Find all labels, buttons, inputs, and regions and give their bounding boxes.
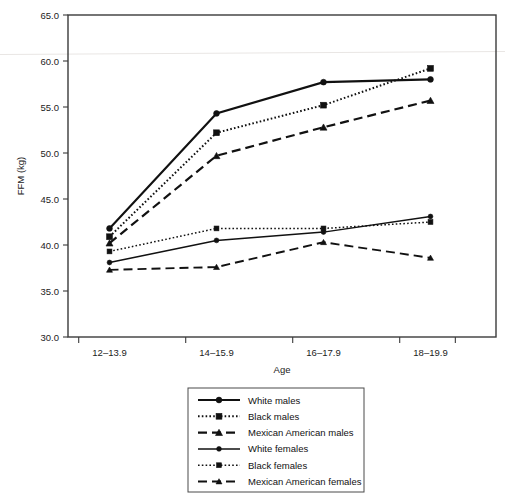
y-tick-label: 45.0 [41,194,60,205]
data-point-square [214,226,219,231]
data-point-square [321,102,327,108]
legend-item-label: White males [248,395,301,406]
y-tick-label: 60.0 [41,56,60,67]
data-point-circle [214,111,220,117]
x-tick-label: 12–13.9 [92,347,126,358]
y-tick-label: 35.0 [41,286,60,297]
data-point-square [216,413,222,419]
legend-item-label: White females [248,443,308,454]
data-point-circle [107,260,112,265]
data-point-circle [428,77,434,83]
y-tick-label: 55.0 [41,102,60,113]
chart-figure: 30.035.040.045.050.055.060.065.0 12–13.9… [0,0,505,503]
y-axis-title: FFM (kg) [15,157,26,196]
y-tick-label: 65.0 [41,10,60,21]
x-axis-title: Age [274,364,291,375]
data-point-square [107,249,112,254]
line-chart-svg: 30.035.040.045.050.055.060.065.0 12–13.9… [0,0,505,503]
x-tick-label: 14–15.9 [199,347,233,358]
data-point-circle [214,238,219,243]
y-tick-label: 30.0 [41,332,60,343]
data-point-square [428,220,433,225]
x-tick-label: 18–19.9 [413,347,447,358]
data-point-square [428,65,434,71]
legend-item-label: Black females [248,460,307,471]
legend-item-label: Mexican American males [248,427,354,438]
data-point-square [214,130,220,136]
data-point-square [217,463,222,468]
legend-item-label: Black males [248,411,299,422]
data-point-circle [216,397,222,403]
data-point-circle [107,226,113,232]
legend-item-label: Mexican American females [248,476,362,487]
x-tick-label: 16–17.9 [306,347,340,358]
y-tick-label: 50.0 [41,148,60,159]
data-point-circle [217,447,222,452]
data-point-square [321,226,326,231]
y-tick-label: 40.0 [41,240,60,251]
data-point-square [107,234,113,240]
data-point-circle [428,214,433,219]
data-point-circle [321,79,327,85]
